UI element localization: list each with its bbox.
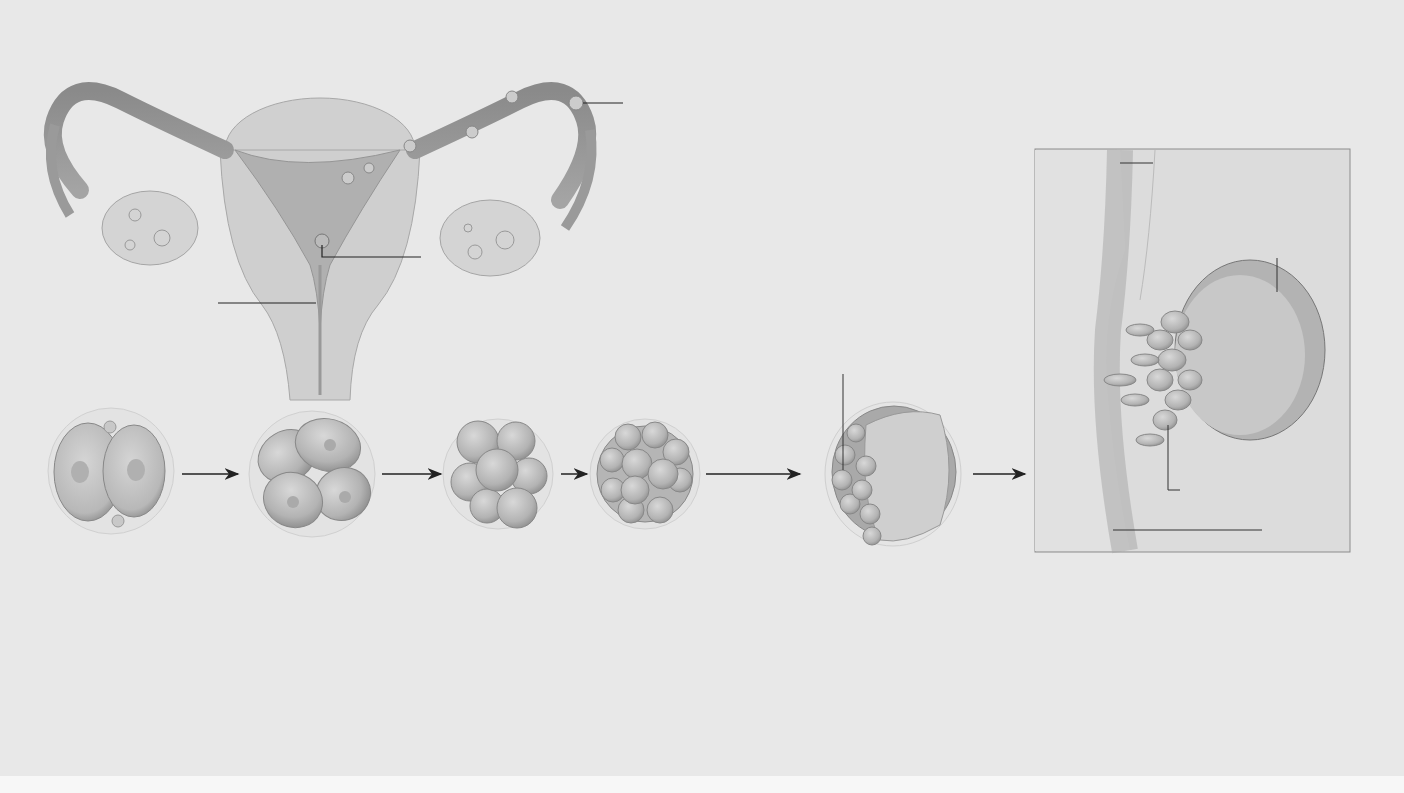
stage-a-two-cell-embryo [48, 408, 174, 534]
stage-c-eight-cell-embryo [443, 419, 553, 529]
stage-b-four-cell-embryo [249, 411, 381, 537]
stage-c-morula [590, 419, 700, 529]
stage-d-blastocyst [825, 374, 961, 546]
uterus-illustration [51, 91, 623, 400]
embryo-development-illustration [0, 0, 1404, 793]
stage-e-implantation-inset [1035, 149, 1350, 552]
